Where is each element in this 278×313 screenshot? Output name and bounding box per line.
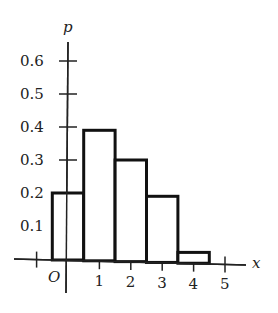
histogram-bar-0	[52, 193, 83, 260]
y-tick-label: 0.4	[20, 118, 44, 136]
y-axis-label: p	[63, 18, 73, 36]
y-tick-label: 0.3	[20, 151, 44, 169]
x-tick-label: 2	[126, 273, 136, 291]
x-tick-label: 4	[189, 275, 199, 293]
histogram-bar-1	[84, 130, 115, 261]
x-tick-label: 3	[157, 274, 167, 292]
x-axis-label: x	[252, 254, 261, 272]
origin-label: O	[48, 268, 60, 286]
x-tick-label: 5	[220, 275, 230, 293]
histogram-bar-2	[115, 160, 146, 262]
y-tick-label: 0.6	[20, 52, 44, 70]
histogram-bar-3	[147, 196, 178, 262]
x-tick-label: 1	[94, 272, 104, 290]
y-tick-label: 0.1	[20, 217, 44, 235]
histogram-chart: p x O 0.10.20.30.40.50.6 12345	[0, 0, 278, 313]
histogram-bar-4	[178, 252, 209, 263]
y-tick-label: 0.2	[20, 184, 44, 202]
y-tick-label: 0.5	[20, 85, 44, 103]
